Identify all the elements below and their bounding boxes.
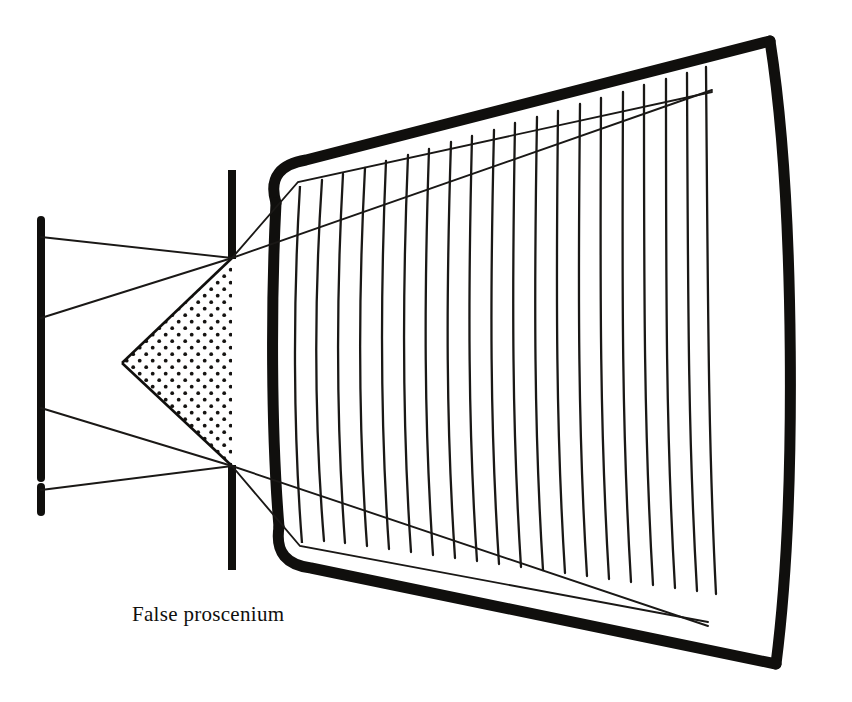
auditorium-left-wall xyxy=(273,203,279,527)
sightline-diagram xyxy=(0,0,852,702)
figure-root: False proscenium xyxy=(0,0,852,702)
